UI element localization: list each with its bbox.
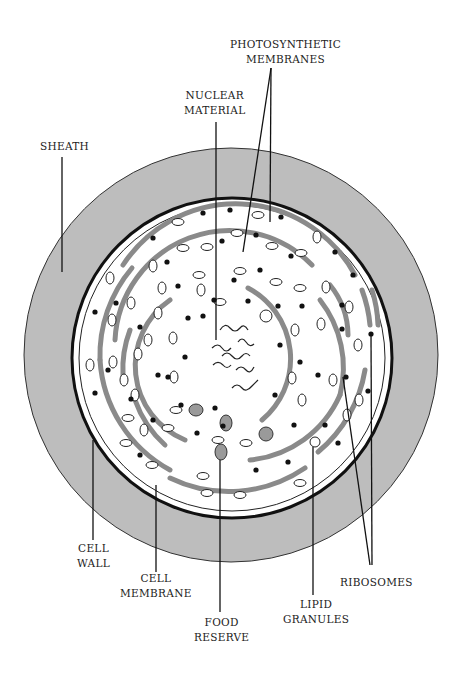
label-ribosomes: RIBOSOMES [340,575,413,590]
label-lipid-granules: LIPID GRANULES [283,597,349,627]
label-photosynthetic-membranes: PHOTOSYNTHETIC MEMBRANES [230,37,341,67]
label-food-reserve: FOOD RESERVE [194,615,249,645]
label-nuclear-material: NUCLEAR MATERIAL [184,88,245,118]
label-cell-wall: CELL WALL [77,541,110,571]
label-cell-membrane: CELL MEMBRANE [120,571,192,601]
label-sheath: SHEATH [40,139,89,154]
